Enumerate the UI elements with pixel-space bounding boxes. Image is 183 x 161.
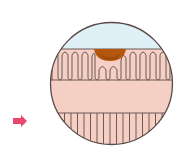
- pointer-arrow-icon: [13, 115, 27, 127]
- diagram-canvas: [0, 0, 183, 161]
- magnified-tissue-view: [40, 15, 180, 150]
- lumen-layer: [40, 15, 180, 49]
